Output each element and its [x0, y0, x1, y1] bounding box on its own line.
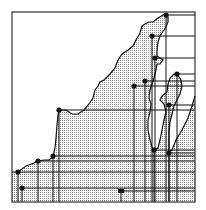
station-marker	[35, 158, 40, 163]
station-marker	[142, 78, 147, 83]
station-marker	[19, 185, 24, 190]
station-marker	[131, 83, 136, 88]
station-marker	[174, 71, 179, 76]
station-marker	[152, 55, 157, 60]
station-marker	[56, 107, 61, 112]
station-marker	[166, 150, 171, 155]
map-figure	[0, 0, 206, 210]
station-marker	[15, 169, 20, 174]
station-marker	[151, 147, 156, 152]
station-marker	[149, 33, 154, 38]
station-marker	[166, 102, 171, 107]
station-marker	[163, 12, 168, 17]
station-marker	[50, 153, 55, 158]
station-marker	[118, 189, 124, 193]
